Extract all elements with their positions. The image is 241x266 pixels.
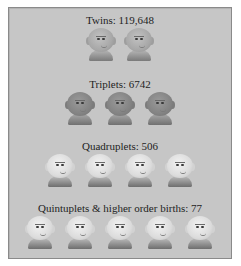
baby-face-icon [184,216,216,248]
faces-row [9,92,231,124]
faces-row [9,28,231,60]
group-label: Twins: 119,648 [9,14,231,27]
baby-face-icon [24,216,56,248]
group-quadruplets: Quadruplets: 506 [9,140,231,186]
baby-face-icon [64,92,96,124]
group-label: Triplets: 6742 [9,78,231,91]
baby-face-icon [64,216,96,248]
baby-face-icon [84,154,116,186]
baby-face-icon [124,154,156,186]
baby-face-icon [104,92,136,124]
group-quintuplets: Quintuplets & higher order births: 77 [9,202,231,248]
baby-face-icon [85,28,117,60]
group-triplets: Triplets: 6742 [9,78,231,124]
baby-face-icon [104,216,136,248]
baby-face-icon [144,92,176,124]
baby-face-icon [144,216,176,248]
baby-face-icon [44,154,76,186]
baby-face-icon [123,28,155,60]
infographic-panel: Twins: 119,648 Triplets: 6742 Quadruplet… [8,7,232,259]
faces-row [9,154,231,186]
baby-face-icon [164,154,196,186]
group-label: Quintuplets & higher order births: 77 [9,202,231,215]
group-label: Quadruplets: 506 [9,140,231,153]
faces-row [9,216,231,248]
group-twins: Twins: 119,648 [9,14,231,60]
